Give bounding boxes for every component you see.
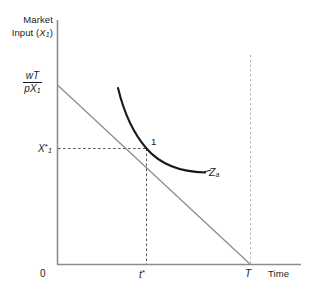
- y-axis-title-line2-pre: Input (: [12, 27, 40, 38]
- y-axis-title-line2-post: ): [50, 27, 53, 38]
- t-star-superscript: *: [142, 268, 145, 277]
- fraction-denominator: pX1: [23, 84, 41, 95]
- x-axis-title: Time: [268, 268, 289, 280]
- tangency-point-label: 1: [151, 136, 156, 148]
- y-axis-title: Market Input (X1): [0, 14, 53, 40]
- fraction-numerator: wT: [23, 71, 41, 82]
- origin-label: 0: [40, 268, 46, 281]
- fraction-denominator-var: pX: [24, 83, 36, 94]
- economics-figure: Market Input (X1) wT pX1 X*1 0 t* T Time…: [0, 0, 310, 299]
- curve-label-subscript: a: [216, 171, 220, 178]
- y-intercept-tick-label: wT pX1: [12, 71, 53, 95]
- fraction-denominator-subscript: 1: [37, 87, 41, 94]
- y-tick-label-x1-star: X*1: [24, 142, 52, 156]
- isoquant-curve-z: [118, 88, 205, 173]
- y-axis-title-line1: Market: [23, 14, 53, 25]
- full-income-fraction: wT pX1: [23, 71, 41, 95]
- x1-star-variable: X: [38, 143, 45, 154]
- x-tick-label-t-star: t*: [139, 268, 145, 281]
- x-tick-label-T: T: [245, 268, 251, 281]
- budget-constraint-line: [58, 85, 251, 265]
- isoquant-curve-label: Za: [209, 166, 220, 180]
- x1-star-subscript: 1: [48, 147, 52, 154]
